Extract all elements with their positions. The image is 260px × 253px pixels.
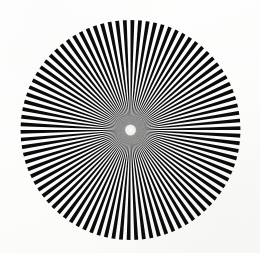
center-hub [125,125,136,136]
siemens-star-figure [0,0,260,253]
siemens-star-graphic [0,0,260,253]
